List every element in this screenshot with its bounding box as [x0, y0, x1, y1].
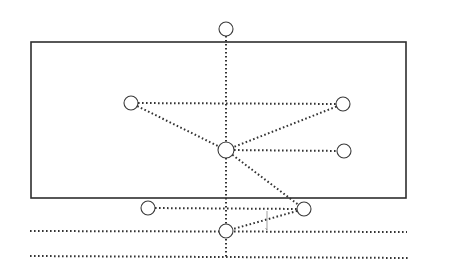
node-upper-right-circle	[336, 97, 350, 111]
edge-upper-right-center	[233, 107, 336, 148]
edges-group	[137, 36, 337, 229]
bounding-frame	[31, 42, 406, 198]
baseline-lower-line	[30, 256, 408, 258]
edge-lower-left-lower-right	[155, 208, 297, 209]
node-lower-right-circle	[297, 202, 311, 216]
node-bottom-circle	[219, 224, 233, 238]
edge-lower-right-bottom	[233, 211, 298, 229]
diagram-canvas	[0, 0, 454, 275]
nodes-group	[124, 22, 351, 238]
edge-upper-left-upper-right	[138, 103, 336, 104]
node-lower-left-circle	[141, 201, 155, 215]
node-upper-left-circle	[124, 96, 138, 110]
node-center-circle	[218, 142, 234, 158]
node-top-circle	[219, 22, 233, 36]
edge-upper-left-center	[137, 106, 219, 146]
node-middle-right-circle	[337, 144, 351, 158]
edge-center-middle-right	[234, 150, 337, 151]
node-link-diagram	[0, 0, 454, 275]
baseline-lines-group	[30, 231, 408, 258]
